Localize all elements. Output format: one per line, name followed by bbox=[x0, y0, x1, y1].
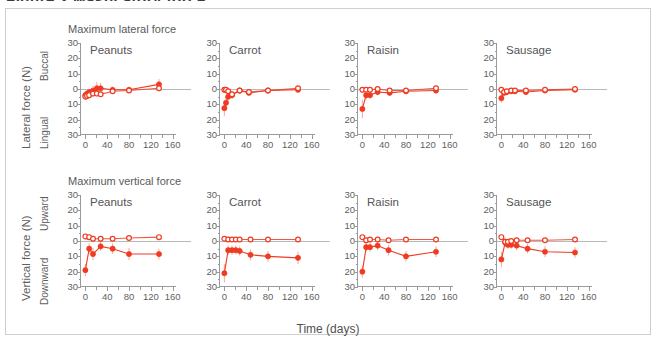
series-line bbox=[85, 246, 159, 270]
ytick-label: 20 bbox=[52, 205, 78, 215]
series-open-circle bbox=[499, 235, 577, 244]
panel-vertical-sausage: 302010010203004080120160Sausage bbox=[468, 191, 598, 299]
xtick-label: 160 bbox=[165, 292, 181, 302]
xtick-label: 40 bbox=[241, 292, 252, 302]
data-point-filled bbox=[222, 106, 227, 111]
data-point-filled bbox=[386, 248, 391, 253]
ytick-label: 10 bbox=[52, 69, 78, 79]
ytick-label: 10 bbox=[191, 251, 217, 261]
yaxis-ticks-vertical-sausage: 3020100102030 bbox=[468, 191, 494, 287]
yaxis-ticks-vertical-peanuts: 3020100102030 bbox=[52, 191, 78, 287]
xtick-label: 80 bbox=[124, 140, 135, 150]
data-point-filled bbox=[98, 86, 103, 91]
data-point-filled bbox=[499, 96, 504, 101]
xtick-label: 40 bbox=[379, 292, 390, 302]
xtick-label: 160 bbox=[442, 140, 458, 150]
ytick-label: 0 bbox=[468, 84, 494, 94]
xtick-mark bbox=[578, 135, 579, 138]
series-filled-circle bbox=[83, 242, 162, 277]
ytick-label: 10 bbox=[468, 99, 494, 109]
data-point-open bbox=[573, 87, 578, 92]
yaxis-ticks-vertical-raisin: 3020100102030 bbox=[329, 191, 355, 287]
series-line bbox=[362, 91, 436, 109]
data-point-open bbox=[525, 238, 530, 243]
yaxis-ticks-vertical-carrot: 3020100102030 bbox=[191, 191, 217, 287]
ytick-label: 20 bbox=[52, 115, 78, 125]
ytick-label: 30 bbox=[329, 190, 355, 200]
xtick-mark bbox=[279, 135, 280, 138]
xtick-label: 0 bbox=[222, 292, 227, 302]
xtick-label: 0 bbox=[83, 140, 88, 150]
xtick-label: 40 bbox=[518, 140, 529, 150]
data-point-filled bbox=[542, 249, 547, 254]
xtick-mark bbox=[162, 135, 163, 138]
data-point-open bbox=[386, 238, 391, 243]
ytick-label: 20 bbox=[52, 53, 78, 63]
xtick-label: 120 bbox=[559, 292, 575, 302]
yaxis-ticks-lateral-raisin: 3020100102030 bbox=[329, 39, 355, 135]
ytick-label: 30 bbox=[468, 38, 494, 48]
data-point-open bbox=[91, 236, 96, 241]
ytick-label: 20 bbox=[52, 267, 78, 277]
xtick-label: 40 bbox=[102, 140, 113, 150]
plot-area-lateral-sausage: 04080120160 bbox=[496, 43, 592, 135]
xtick-mark bbox=[118, 135, 119, 138]
panel-title-vertical-raisin: Raisin bbox=[367, 196, 399, 208]
ytick-label: 20 bbox=[468, 53, 494, 63]
ytick-label: 30 bbox=[191, 130, 217, 140]
series-open-circle bbox=[360, 235, 438, 243]
series-filled-circle bbox=[360, 241, 439, 278]
data-point-open bbox=[543, 87, 548, 92]
xtick-mark bbox=[162, 287, 163, 290]
xtick-label: 120 bbox=[420, 292, 436, 302]
series-line bbox=[362, 88, 436, 90]
series-layer-vertical-sausage bbox=[497, 195, 609, 287]
panel-title-lateral-raisin: Raisin bbox=[367, 44, 399, 56]
data-point-filled bbox=[295, 255, 300, 260]
data-point-open bbox=[266, 88, 271, 93]
yaxis-ticks-lateral-sausage: 3020100102030 bbox=[468, 39, 494, 135]
panel-title-vertical-peanuts: Peanuts bbox=[90, 196, 132, 208]
xtick-label: 120 bbox=[420, 140, 436, 150]
figure-caption: Figure 2 Masticatory force bbox=[6, 0, 206, 1]
plot-area-lateral-peanuts: 04080120160 bbox=[80, 43, 176, 135]
yaxis-sublabel-buccal: Buccal bbox=[39, 51, 50, 81]
ytick-label: 10 bbox=[329, 251, 355, 261]
series-layer-vertical-carrot bbox=[220, 195, 332, 287]
data-point-open bbox=[98, 92, 103, 97]
ytick-label: 0 bbox=[329, 236, 355, 246]
xtick-mark bbox=[417, 135, 418, 138]
xtick-label: 80 bbox=[263, 140, 274, 150]
data-point-open bbox=[368, 237, 373, 242]
data-point-open bbox=[98, 236, 103, 241]
xtick-label: 120 bbox=[143, 292, 159, 302]
xtick-mark bbox=[257, 135, 258, 138]
series-open-circle bbox=[83, 233, 161, 241]
panel-vertical-peanuts: 302010010203004080120160Peanuts bbox=[52, 191, 182, 299]
data-point-open bbox=[434, 86, 439, 91]
data-point-open bbox=[127, 88, 132, 93]
xtick-mark bbox=[578, 287, 579, 290]
yaxis-ticks-lateral-peanuts: 3020100102030 bbox=[52, 39, 78, 135]
xtick-label: 0 bbox=[499, 292, 504, 302]
data-point-open bbox=[110, 89, 115, 94]
data-point-open bbox=[296, 237, 301, 242]
yaxis-ticks-lateral-carrot: 3020100102030 bbox=[191, 39, 217, 135]
data-point-filled bbox=[156, 251, 161, 256]
xtick-mark bbox=[257, 287, 258, 290]
plot-area-vertical-raisin: 04080120160 bbox=[357, 195, 453, 287]
xtick-mark bbox=[512, 135, 513, 138]
panel-title-lateral-carrot: Carrot bbox=[229, 44, 261, 56]
xtick-label: 40 bbox=[241, 140, 252, 150]
xtick-label: 120 bbox=[282, 292, 298, 302]
data-point-open bbox=[157, 86, 162, 91]
yaxis-sublabel-downward: Downward bbox=[39, 258, 50, 305]
xtick-label: 0 bbox=[499, 140, 504, 150]
data-point-open bbox=[375, 87, 380, 92]
ytick-label: 20 bbox=[468, 115, 494, 125]
xtick-label: 120 bbox=[143, 140, 159, 150]
data-point-filled bbox=[265, 254, 270, 259]
yaxis-sublabel-upward: Upward bbox=[39, 197, 50, 231]
xtick-mark bbox=[96, 287, 97, 290]
xtick-label: 40 bbox=[518, 292, 529, 302]
